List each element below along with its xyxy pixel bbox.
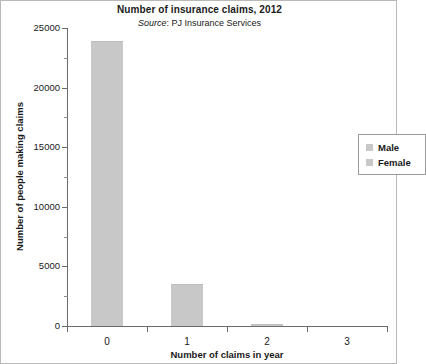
y-tick-major [62,147,68,148]
chart-legend: Male Female [358,134,426,175]
legend-swatch-female [366,159,373,166]
y-tick-minor [64,117,68,118]
bar [267,324,283,326]
y-tick-label: 25000 [10,23,60,32]
y-tick-label: 10000 [10,202,60,211]
bar [187,284,203,326]
bar [91,41,107,326]
x-tick-label: 3 [327,336,367,347]
bar [107,41,123,326]
y-tick-minor [64,58,68,59]
x-tick-label: 1 [167,336,207,347]
x-tick [387,326,388,332]
legend-item-male: Male [366,140,425,155]
x-axis-title: Number of claims in year [67,349,387,360]
x-tick [67,326,68,332]
page-title: Number of insurance claims, 2012 [1,4,398,16]
y-tick-minor [64,296,68,297]
y-tick-label: 15000 [10,142,60,151]
subtitle-source-value: : PJ Insurance Services [166,18,261,28]
y-tick-major [62,207,68,208]
y-tick-minor [64,237,68,238]
plot-area: 0500010000150002000025000 0123 Male Fema… [67,28,387,326]
y-tick-label: 20000 [10,83,60,92]
bar [251,324,267,326]
x-tick-label: 2 [247,336,287,347]
x-tick [307,326,308,332]
y-tick-major [62,266,68,267]
title-block: Number of insurance claims, 2012 Source:… [1,4,398,29]
y-tick-minor [64,177,68,178]
legend-label-male: Male [378,142,399,153]
legend-swatch-male [366,144,373,151]
subtitle-source-word: Source [138,18,167,28]
legend-label-female: Female [378,157,411,168]
y-tick-label: 0 [10,321,60,330]
legend-item-female: Female [366,155,425,170]
y-tick-label: 5000 [10,261,60,270]
x-tick-label: 0 [87,336,127,347]
x-tick [227,326,228,332]
x-tick [147,326,148,332]
bar [171,284,187,326]
y-tick-major [62,28,68,29]
y-axis-title: Number of people making claims [14,67,25,287]
y-tick-major [62,88,68,89]
